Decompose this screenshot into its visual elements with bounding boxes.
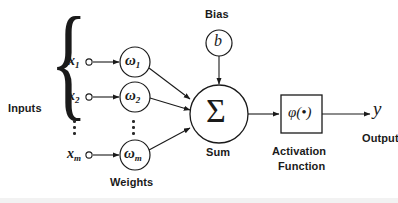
input-label-xm-sub: m	[74, 153, 81, 163]
input-ellipsis-icon	[73, 120, 76, 138]
weight-label-wm-base: ω	[124, 145, 135, 161]
input-label-x1-base: x	[68, 53, 75, 68]
weight-label-w2-base: ω	[125, 87, 136, 103]
input-label-x2-sub: 2	[75, 95, 80, 105]
weight-label-wm-sub: m	[135, 153, 142, 163]
output-symbol: y	[373, 99, 381, 119]
weights-caption: Weights	[110, 177, 153, 189]
output-caption: Output	[362, 133, 398, 145]
weight-label-w1: ω1	[125, 53, 140, 70]
weight-label-w2: ω2	[125, 88, 140, 105]
weight-label-w1-sub: 1	[136, 60, 141, 70]
neuron-diagram-canvas: { Inputs x1 x2 xm ω1 ω2 ωm Weights Bias …	[0, 0, 398, 203]
sum-symbol: Σ	[206, 94, 226, 128]
bias-symbol: b	[214, 33, 222, 50]
bias-caption: Bias	[205, 9, 229, 21]
weight-label-w1-base: ω	[125, 52, 136, 68]
inputs-label: Inputs	[8, 103, 42, 115]
input-label-xm-base: x	[67, 146, 74, 161]
edge-w1-to-sum	[149, 68, 190, 99]
input-label-x1-sub: 1	[75, 60, 80, 70]
activation-caption-line2: Function	[278, 161, 325, 173]
weight-ellipsis-icon	[132, 120, 135, 138]
input-label-x2-base: x	[68, 88, 75, 103]
activation-symbol: φ(•)	[288, 105, 312, 121]
edge-w2-to-sum	[150, 98, 190, 110]
weight-label-w2-sub: 2	[136, 95, 141, 105]
input-label-x1: x1	[68, 54, 80, 70]
weight-label-wm: ωm	[124, 146, 142, 163]
input-terminal-xm	[86, 152, 92, 158]
activation-caption-line1: Activation	[272, 146, 326, 158]
input-label-xm: xm	[67, 147, 81, 163]
input-label-x2: x2	[68, 89, 80, 105]
edge-wm-to-sum	[149, 128, 190, 150]
bottom-band	[0, 198, 398, 203]
sum-caption: Sum	[206, 147, 230, 159]
